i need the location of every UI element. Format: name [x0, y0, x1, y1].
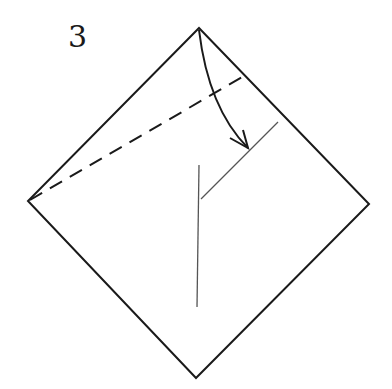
fold-arrow [199, 30, 248, 148]
origami-diagram [0, 0, 392, 389]
vertical-crease [197, 165, 199, 307]
diagonal-crease [201, 122, 278, 199]
valley-fold-line [30, 76, 244, 200]
